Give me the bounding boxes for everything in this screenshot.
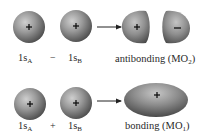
label-1sA: 1sA xyxy=(18,53,32,65)
operator-minus: − xyxy=(50,53,56,63)
caption-antibonding: antibonding (MO2) xyxy=(115,54,195,66)
bonding-orbital-ellipse xyxy=(124,83,188,117)
label-1sB: 1sB xyxy=(68,53,82,65)
mo-diagram xyxy=(0,0,210,133)
caption-bonding: bonding (MO1) xyxy=(125,121,189,133)
label-1sB: 1sB xyxy=(68,121,82,133)
row-bonding xyxy=(14,83,188,120)
row-antibonding xyxy=(13,10,190,43)
operator-plus: + xyxy=(50,121,56,131)
label-1sA: 1sA xyxy=(18,121,32,133)
antibonding-lobe-negative xyxy=(162,11,190,44)
